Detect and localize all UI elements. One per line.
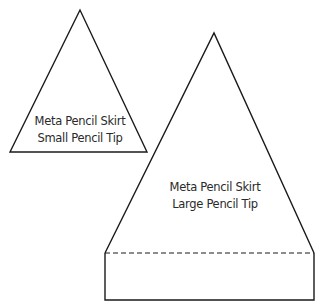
- small-template-title: Meta Pencil Skirt: [20, 113, 140, 130]
- small-template-subtitle: Small Pencil Tip: [20, 130, 140, 147]
- large-template-title: Meta Pencil Skirt: [150, 179, 280, 196]
- large-template-label: Meta Pencil Skirt Large Pencil Tip: [150, 179, 280, 213]
- skirt-band-rectangle: [105, 253, 314, 300]
- large-template-subtitle: Large Pencil Tip: [150, 196, 280, 213]
- pattern-shapes: [0, 0, 317, 301]
- pattern-canvas: Meta Pencil Skirt Small Pencil Tip Meta …: [0, 0, 317, 301]
- small-template-label: Meta Pencil Skirt Small Pencil Tip: [20, 113, 140, 147]
